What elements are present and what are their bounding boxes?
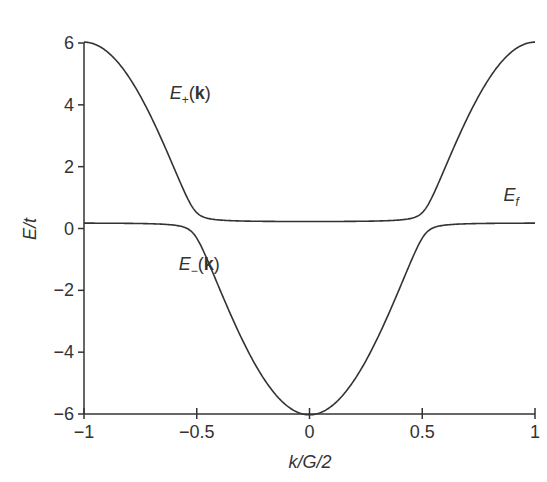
y-tick-label: −4 xyxy=(53,342,74,362)
y-axis-label: E/t xyxy=(20,217,40,240)
x-tick-label: −0.5 xyxy=(179,422,215,442)
E-plus-label: E+(k) xyxy=(170,83,211,107)
E-minus-curve xyxy=(84,223,535,415)
labels: E+(k)E−(k)Ef xyxy=(170,83,521,279)
E-f-label: Ef xyxy=(503,185,520,209)
x-tick-label: −1 xyxy=(74,422,95,442)
curves xyxy=(84,42,535,415)
x-tick-label: 0.5 xyxy=(410,422,435,442)
x-tick-label: 1 xyxy=(530,422,540,442)
y-tick-label: 0 xyxy=(64,219,74,239)
y-tick-label: 2 xyxy=(64,157,74,177)
y-tick-label: 6 xyxy=(64,33,74,53)
y-tick-label: −6 xyxy=(53,404,74,424)
axes xyxy=(84,43,535,414)
band-structure-chart: −6−4−20246−1−0.500.51 E+(k)E−(k)Ef k/G/2… xyxy=(0,0,547,482)
ticks: −6−4−20246−1−0.500.51 xyxy=(53,33,540,442)
y-tick-label: 4 xyxy=(64,95,74,115)
x-axis-label: k/G/2 xyxy=(288,452,331,472)
x-tick-label: 0 xyxy=(304,422,314,442)
y-tick-label: −2 xyxy=(53,280,74,300)
E-plus-curve xyxy=(84,42,535,221)
